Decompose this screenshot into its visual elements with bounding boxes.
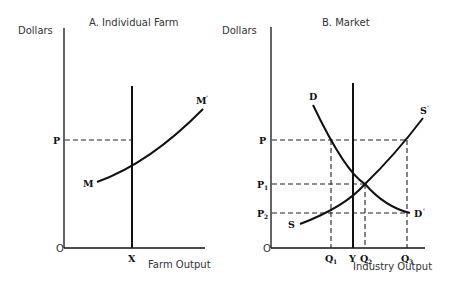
panel-a-m-curve — [97, 109, 203, 182]
panel-b-price-p2-sub: 2 — [264, 213, 268, 220]
panel-b-q1-sub: 1 — [333, 258, 337, 265]
panel-a-x-axis-label-visible: Farm Output — [148, 259, 211, 270]
panel-b-demand-curve — [313, 105, 410, 213]
panel-individual-farm: A. Individual Farm Dollars P M M ' O X F… — [18, 17, 211, 270]
panel-b-y-axis-label: Dollars — [222, 25, 257, 36]
panel-b-demand-prime-label: D — [414, 208, 422, 219]
panel-a-title: A. Individual Farm — [89, 17, 179, 28]
panel-a-m-label: M — [83, 178, 94, 189]
panel-b-demand-label: D — [309, 91, 317, 102]
panel-b-supply-curve — [300, 118, 423, 224]
panel-b-supply-prime-label: S — [420, 105, 427, 116]
panel-b-supply-prime-mark: ' — [427, 104, 429, 111]
panel-a-origin-label: O — [56, 243, 64, 254]
panel-b-x-axis-label: Industry Output — [353, 261, 432, 272]
panel-a-y-axis-label: Dollars — [18, 25, 53, 36]
panel-b-title: B. Market — [322, 17, 370, 28]
panel-a-x-label: X — [128, 253, 136, 264]
panel-b-price-p1-sub: 1 — [264, 184, 268, 191]
panel-b-supply-label: S — [288, 219, 295, 230]
economics-diagram: A. Individual Farm Dollars P M M ' O X F… — [0, 0, 453, 285]
panel-b-price-p-label: P — [259, 135, 266, 146]
panel-b-demand-prime-mark: ' — [423, 207, 425, 214]
panel-market: B. Market Dollars P P 1 P 2 D D ' S S ' — [222, 17, 432, 272]
panel-a-m-prime-mark: ' — [206, 94, 208, 101]
panel-a-price-label: P — [53, 135, 60, 146]
panel-b-origin-label: O — [263, 243, 271, 254]
